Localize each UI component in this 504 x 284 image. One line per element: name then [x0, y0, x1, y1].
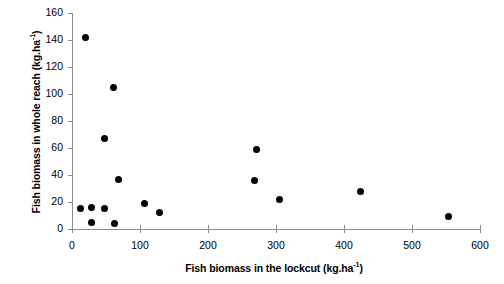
y-tick-label: 100: [29, 88, 63, 99]
x-tick-label: 500: [392, 240, 432, 251]
x-tick-label: 0: [52, 240, 92, 251]
x-tick-mark: [412, 225, 413, 233]
data-point: [115, 176, 122, 183]
data-point: [111, 220, 118, 227]
x-tick-mark: [208, 225, 209, 233]
y-tick-mark: [68, 13, 73, 14]
y-tick-label: 60: [29, 142, 63, 153]
x-axis-title-tail: ): [359, 262, 362, 274]
scatter-plot-figure: Fish biomass in whole reach (kg.ha-1) Fi…: [0, 0, 504, 284]
data-point: [101, 205, 108, 212]
data-point: [82, 34, 89, 41]
x-tick-mark: [140, 225, 141, 233]
y-tick-mark: [68, 121, 73, 122]
y-tick-mark: [68, 94, 73, 95]
y-tick-label: 160: [29, 7, 63, 18]
data-point: [110, 84, 117, 91]
y-tick-mark: [68, 202, 73, 203]
y-tick-label: 120: [29, 61, 63, 72]
x-tick-mark: [72, 225, 73, 233]
y-tick-label: 140: [29, 34, 63, 45]
x-tick-label: 300: [256, 240, 296, 251]
x-tick-mark: [344, 225, 345, 233]
data-point: [276, 196, 283, 203]
data-point: [156, 209, 163, 216]
x-axis-line: [68, 229, 480, 230]
data-point: [253, 146, 260, 153]
data-point: [101, 135, 108, 142]
y-tick-mark: [68, 40, 73, 41]
y-tick-label: 80: [29, 115, 63, 126]
x-tick-mark: [480, 225, 481, 233]
x-axis-title: Fish biomass in the lockcut (kg.ha-1): [68, 261, 480, 274]
y-tick-mark: [68, 67, 73, 68]
y-tick-mark: [68, 175, 73, 176]
data-point: [88, 219, 95, 226]
y-tick-label: 0: [29, 223, 63, 234]
x-tick-label: 200: [188, 240, 228, 251]
data-point: [141, 200, 148, 207]
x-tick-label: 100: [120, 240, 160, 251]
data-point: [88, 204, 95, 211]
data-point: [357, 188, 364, 195]
data-point: [445, 213, 452, 220]
x-tick-mark: [276, 225, 277, 233]
y-tick-label: 40: [29, 169, 63, 180]
y-tick-mark: [68, 148, 73, 149]
data-point: [251, 177, 258, 184]
x-axis-title-main: Fish biomass in the lockcut (kg.ha: [185, 262, 353, 274]
data-point: [77, 205, 84, 212]
x-tick-label: 400: [324, 240, 364, 251]
x-tick-label: 600: [460, 240, 500, 251]
y-tick-label: 20: [29, 196, 63, 207]
